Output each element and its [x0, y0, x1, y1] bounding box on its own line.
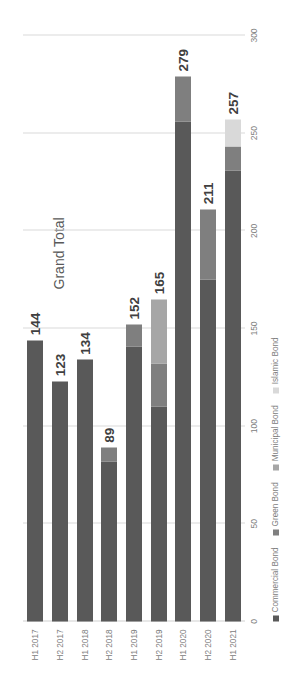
bar-group	[225, 35, 241, 621]
bar-total-label: 144	[28, 312, 43, 335]
bar-group	[200, 35, 216, 621]
bar-group	[101, 35, 117, 621]
legend-item[interactable]: Green Bond	[271, 482, 280, 535]
bar-total-label: 279	[176, 49, 191, 72]
bar-segment-green-bond	[151, 363, 167, 406]
legend-swatch-icon	[273, 529, 279, 535]
bar-segment-municipal-bond	[151, 299, 167, 363]
bar-total-label: 134	[77, 332, 92, 355]
category-label: H1 2017	[31, 629, 40, 660]
axis-tick-label: 150	[249, 321, 259, 335]
axis-tick-label: 200	[249, 223, 259, 237]
bar-segment-commercial-bond	[200, 279, 216, 621]
bar-segment-green-bond	[200, 209, 216, 279]
bar-segment-commercial-bond	[225, 170, 241, 621]
bar-segment-commercial-bond	[175, 121, 191, 621]
legend-label: Green Bond	[271, 482, 280, 526]
bar-segment-commercial-bond	[52, 381, 68, 621]
axis-tick-label: 0	[249, 619, 259, 624]
bar-segment-commercial-bond	[77, 359, 93, 621]
chart-legend: Commercial BondGreen BondMunicipal BondI…	[271, 337, 280, 621]
bar-segment-commercial-bond	[101, 461, 117, 621]
bar-segment-green-bond	[175, 76, 191, 121]
category-label: H2 2018	[105, 629, 114, 660]
bar-segment-islamic-bond	[225, 119, 241, 146]
legend-label: Commercial Bond	[271, 547, 280, 612]
category-label: H1 2020	[179, 629, 188, 660]
bar-total-label: 89	[102, 427, 117, 442]
legend-swatch-icon	[273, 615, 279, 621]
legend-item[interactable]: Islamic Bond	[271, 337, 280, 393]
legend-label: Islamic Bond	[271, 337, 280, 384]
category-label: H2 2020	[204, 629, 213, 660]
bar-total-label: 211	[201, 182, 216, 204]
category-label: H1 2019	[130, 629, 139, 660]
bar-group	[77, 35, 93, 621]
bar-group	[52, 35, 68, 621]
legend-swatch-icon	[273, 387, 279, 393]
axis-tick-label: 250	[249, 126, 259, 140]
legend-item[interactable]: Commercial Bond	[271, 547, 280, 621]
category-label: H1 2018	[80, 629, 89, 660]
axis-tick-label: 300	[249, 28, 259, 42]
bar-segment-green-bond	[126, 324, 142, 345]
bar-total-label: 257	[225, 91, 240, 114]
category-axis-labels: H1 2017H2 2017H1 2018H2 2018H1 2019H2 20…	[23, 625, 245, 681]
legend-swatch-icon	[273, 464, 279, 470]
category-label: H1 2021	[228, 629, 237, 660]
bar-segment-commercial-bond	[126, 346, 142, 621]
bar-group	[151, 35, 167, 621]
bar-group	[175, 35, 191, 621]
bar-total-label: 152	[127, 297, 142, 320]
bar-group	[126, 35, 142, 621]
category-label: H2 2017	[56, 629, 65, 660]
chart-canvas: Grand Total H1 2017H2 2017H1 2018H2 2018…	[13, 0, 294, 687]
axis-tick-label: 50	[249, 519, 259, 528]
bar-segment-commercial-bond	[151, 406, 167, 621]
legend-label: Municipal Bond	[271, 405, 280, 461]
category-label: H2 2019	[154, 629, 163, 660]
bar-total-label: 165	[151, 271, 166, 294]
legend-item[interactable]: Municipal Bond	[271, 405, 280, 470]
bar-total-label: 123	[53, 353, 68, 376]
axis-tick-label: 100	[249, 419, 259, 433]
value-axis-ticks: 050100150200250300	[249, 35, 263, 621]
bar-segment-green-bond	[101, 447, 117, 461]
bar-segment-commercial-bond	[27, 340, 43, 621]
bar-segment-green-bond	[225, 146, 241, 169]
plot-area: 14412313489152165279211257	[23, 35, 245, 621]
